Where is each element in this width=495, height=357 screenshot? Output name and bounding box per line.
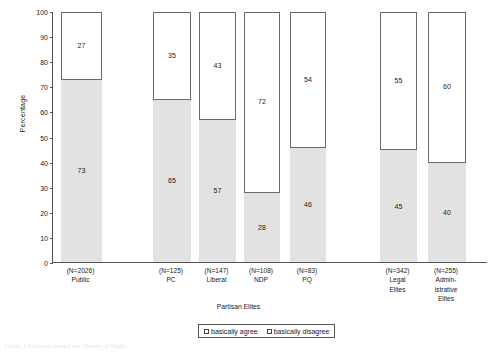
bar-group[interactable]: 5743: [199, 12, 236, 262]
chart-legend: basically agree basically disagree: [198, 324, 335, 338]
legend-swatch-agree-icon: [204, 329, 209, 334]
x-axis-category-name: istrative: [413, 285, 479, 294]
bar-segment-agree[interactable]: [199, 119, 236, 262]
x-axis-sample-size: (N=255): [413, 266, 479, 275]
y-axis-tick-label: 80: [40, 59, 48, 66]
legend-label-agree: basically agree: [211, 328, 258, 335]
y-axis-tick-mark: [50, 238, 54, 239]
figure-caption: Figure 1 Attitudes toward the Charter of…: [4, 343, 127, 349]
x-axis-category-label: (N=2026)Public: [46, 266, 115, 285]
x-axis-sample-size: (N=83): [275, 266, 339, 275]
y-axis-tick-mark: [50, 138, 54, 139]
chart-figure: Percentage 01020304050607080901007327653…: [0, 0, 495, 357]
y-axis-tick-label: 100: [36, 9, 48, 16]
y-axis-tick-label: 60: [40, 109, 48, 116]
plot-area: 0102030405060708090100732765355743287246…: [52, 12, 487, 263]
y-axis-tick-mark: [50, 87, 54, 88]
y-axis-tick-mark: [50, 188, 54, 189]
y-axis-tick-label: 70: [40, 84, 48, 91]
legend-item-basically-disagree: basically disagree: [267, 328, 330, 335]
x-axis-category-label: (N=255)Admin-istrativeElites: [413, 266, 479, 304]
bar-group[interactable]: 7327: [61, 12, 102, 262]
y-axis-tick-mark: [50, 12, 54, 13]
y-axis-tick-mark: [50, 263, 54, 264]
bar-segment-agree[interactable]: [61, 79, 102, 262]
y-axis-tick-mark: [50, 62, 54, 63]
bar-segment-agree[interactable]: [153, 99, 191, 262]
legend-item-basically-agree: basically agree: [204, 328, 258, 335]
x-axis-category-name: Admin-: [413, 275, 479, 284]
bar-group[interactable]: 2872: [244, 12, 280, 262]
y-axis-tick-mark: [50, 37, 54, 38]
x-axis-group-title: Partisan Elites: [152, 303, 325, 310]
y-axis-title: Percentage: [19, 64, 26, 164]
bar-group[interactable]: 4654: [290, 12, 326, 262]
x-axis-category-label: (N=83)PQ: [275, 266, 339, 285]
y-axis-tick-mark: [50, 163, 54, 164]
bar-group[interactable]: 6535: [153, 12, 191, 262]
y-axis-tick-mark: [50, 213, 54, 214]
x-axis-category-name: Elites: [413, 294, 479, 303]
bar-segment-agree[interactable]: [380, 149, 417, 262]
y-axis-tick-label: 90: [40, 34, 48, 41]
y-axis-tick-label: 30: [40, 184, 48, 191]
y-axis-tick-mark: [50, 112, 54, 113]
bar-segment-agree[interactable]: [290, 147, 326, 262]
bar-group[interactable]: 4555: [380, 12, 417, 262]
y-axis-tick-label: 40: [40, 159, 48, 166]
x-axis-sample-size: (N=2026): [46, 266, 115, 275]
y-axis-tick-label: 50: [40, 134, 48, 141]
y-axis-tick-label: 20: [40, 209, 48, 216]
legend-label-disagree: basically disagree: [274, 328, 330, 335]
bar-segment-agree[interactable]: [428, 162, 466, 262]
y-axis-tick-label: 10: [40, 234, 48, 241]
bar-segment-agree[interactable]: [244, 192, 280, 262]
x-axis-category-name: Public: [46, 275, 115, 284]
bar-group[interactable]: 4060: [428, 12, 466, 262]
x-axis-category-name: PQ: [275, 275, 339, 284]
legend-swatch-disagree-icon: [267, 329, 272, 334]
